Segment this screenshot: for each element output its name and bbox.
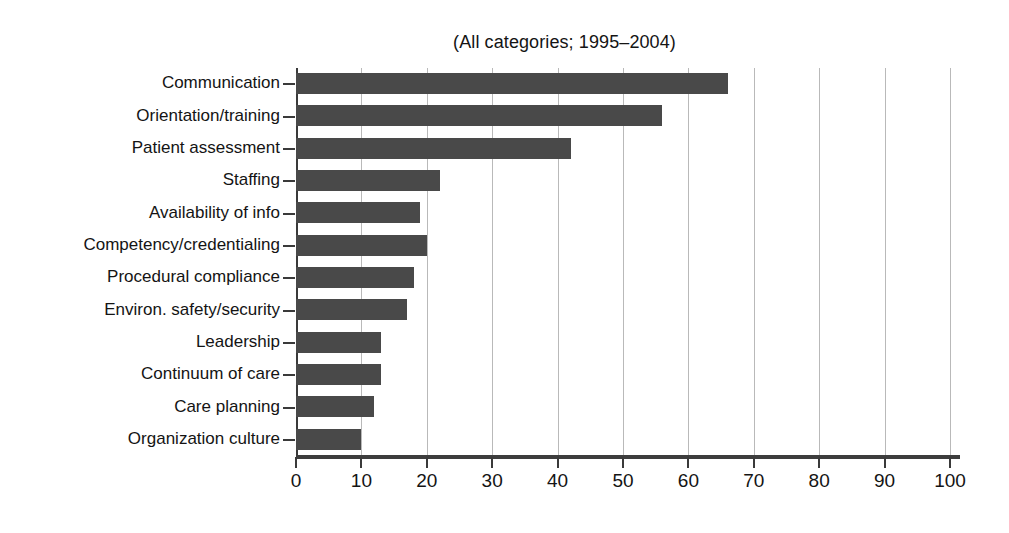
x-tick-label: 40 <box>547 470 568 492</box>
bar[interactable] <box>296 138 571 159</box>
x-tick-mark <box>557 457 559 468</box>
y-tick-label: Orientation/training <box>136 106 280 126</box>
bar[interactable] <box>296 267 414 288</box>
bar-row <box>296 359 950 391</box>
y-tick-label: Continuum of care <box>141 364 280 384</box>
y-tick-label: Staffing <box>223 170 280 190</box>
y-tick-mark <box>283 310 295 312</box>
x-tick-mark <box>622 457 624 468</box>
y-tick-mark <box>283 277 295 279</box>
y-tick-label: Leadership <box>196 332 280 352</box>
bar-row <box>296 68 950 100</box>
y-tick-mark <box>283 116 295 118</box>
x-tick-mark <box>949 457 951 468</box>
x-tick-label: 80 <box>809 470 830 492</box>
x-tick-label: 20 <box>416 470 437 492</box>
x-tick-mark <box>687 457 689 468</box>
y-tick-label: Procedural compliance <box>107 267 280 287</box>
bar[interactable] <box>296 332 381 353</box>
x-tick-mark <box>491 457 493 468</box>
y-tick-mark <box>283 148 295 150</box>
x-tick-label: 100 <box>934 470 966 492</box>
bar[interactable] <box>296 299 407 320</box>
x-tick-label: 60 <box>678 470 699 492</box>
y-tick-mark <box>283 213 295 215</box>
bar[interactable] <box>296 235 427 256</box>
y-tick-mark <box>283 407 295 409</box>
x-tick-label: 30 <box>482 470 503 492</box>
bar[interactable] <box>296 364 381 385</box>
x-tick-mark <box>753 457 755 468</box>
bar-row <box>296 327 950 359</box>
plot-area <box>296 68 950 456</box>
chart-title: (All categories; 1995–2004) <box>0 32 1009 53</box>
y-tick-label: Communication <box>162 73 280 93</box>
x-tick-label: 90 <box>874 470 895 492</box>
x-tick-mark <box>360 457 362 468</box>
bar[interactable] <box>296 73 728 94</box>
y-tick-label: Care planning <box>174 397 280 417</box>
y-tick-label: Competency/credentialing <box>83 235 280 255</box>
y-tick-mark <box>283 439 295 441</box>
x-tick-label: 70 <box>743 470 764 492</box>
bar[interactable] <box>296 396 374 417</box>
x-tick-label: 10 <box>351 470 372 492</box>
y-tick-mark <box>283 83 295 85</box>
x-tick-label: 0 <box>291 470 302 492</box>
y-tick-label: Organization culture <box>128 429 280 449</box>
bar-row <box>296 133 950 165</box>
x-tick-mark <box>884 457 886 468</box>
y-tick-label: Environ. safety/security <box>104 300 280 320</box>
bar-row <box>296 424 950 456</box>
y-tick-label: Patient assessment <box>132 138 280 158</box>
bar-row <box>296 294 950 326</box>
y-tick-label: Availability of info <box>149 203 280 223</box>
bar-row <box>296 391 950 423</box>
bar-row <box>296 165 950 197</box>
bar[interactable] <box>296 202 420 223</box>
y-tick-mark <box>283 374 295 376</box>
x-axis-line <box>296 455 960 459</box>
bar-row <box>296 197 950 229</box>
bar[interactable] <box>296 105 662 126</box>
y-tick-mark <box>283 342 295 344</box>
bar[interactable] <box>296 170 440 191</box>
x-tick-mark <box>426 457 428 468</box>
gridline-100 <box>950 68 951 458</box>
x-tick-mark <box>818 457 820 468</box>
bar-chart-figure: (All categories; 1995–2004) Communicatio… <box>0 0 1009 533</box>
x-tick-label: 50 <box>612 470 633 492</box>
bar-row <box>296 100 950 132</box>
bar-row <box>296 262 950 294</box>
bar-row <box>296 230 950 262</box>
bar[interactable] <box>296 429 361 450</box>
y-tick-mark <box>283 245 295 247</box>
y-tick-mark <box>283 180 295 182</box>
x-tick-mark <box>295 457 297 468</box>
